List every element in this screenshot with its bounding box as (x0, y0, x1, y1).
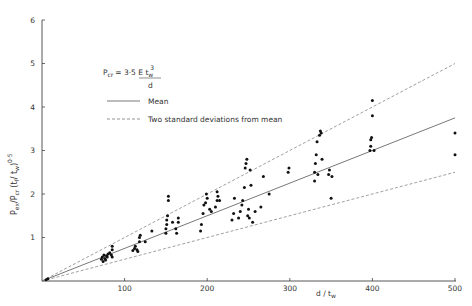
data-point (254, 210, 257, 213)
data-point (218, 199, 221, 202)
data-point (330, 197, 333, 200)
x-tick-label: 500 (448, 284, 463, 293)
data-points (45, 99, 457, 281)
x-tick-label: 300 (283, 284, 298, 293)
data-point (245, 158, 248, 161)
data-point (174, 227, 177, 230)
data-point (144, 240, 147, 243)
data-point (315, 153, 318, 156)
y-tick-label: 1 (30, 233, 35, 242)
data-point (46, 277, 49, 280)
data-point (230, 219, 233, 222)
data-point (204, 201, 207, 204)
data-point (167, 199, 170, 202)
data-point (139, 234, 142, 237)
sd-line (42, 64, 455, 282)
y-ticks: 123456 (30, 16, 45, 243)
legend-sd-label: Two standard deviations from mean (147, 115, 283, 124)
data-point (262, 175, 265, 178)
x-tick-label: 200 (200, 284, 215, 293)
data-point (200, 223, 203, 226)
axes (42, 20, 456, 281)
x-tick-label: 100 (117, 284, 132, 293)
data-point (166, 214, 169, 217)
data-point (165, 219, 168, 222)
data-point (239, 210, 242, 213)
data-point (240, 203, 243, 206)
data-point (202, 212, 205, 215)
data-point (249, 184, 252, 187)
data-point (371, 99, 374, 102)
data-point (165, 223, 168, 226)
data-point (243, 186, 246, 189)
x-ticks: 100200300400500 (117, 278, 462, 293)
formula: Pcr= 3·5 E tw3 (103, 64, 154, 78)
data-point (237, 216, 240, 219)
data-point (134, 245, 137, 248)
data-point (249, 169, 252, 172)
data-point (287, 171, 290, 174)
y-tick-label: 5 (30, 59, 35, 68)
data-point (454, 153, 457, 156)
data-point (287, 166, 290, 169)
data-point (216, 190, 219, 193)
data-point (206, 197, 209, 200)
sd-line (42, 172, 455, 281)
y-axis-title: Pex/Pcr(tf/ tw)0·5 (6, 153, 20, 215)
data-point (111, 245, 114, 248)
formula-denominator: d (148, 81, 153, 90)
data-point (104, 259, 107, 262)
y-tick-label: 2 (30, 190, 35, 199)
data-point (106, 256, 109, 259)
data-point (268, 193, 271, 196)
data-point (210, 210, 213, 213)
data-point (368, 149, 371, 152)
data-point (248, 216, 251, 219)
data-point (136, 250, 139, 253)
data-point (369, 145, 372, 148)
mean-line (42, 118, 455, 281)
data-point (177, 216, 180, 219)
legend-mean-label: Mean (148, 97, 169, 106)
legend: Pcr= 3·5 E tw3 d Mean Two standard devia… (103, 64, 283, 124)
data-point (167, 195, 170, 198)
data-point (371, 114, 374, 117)
y-tick-label: 4 (30, 103, 35, 112)
data-point (138, 240, 141, 243)
chart-canvas: 123456 100200300400500 Pcr= 3·5 E tw3 d … (0, 0, 472, 306)
data-point (327, 173, 330, 176)
y-tick-label: 3 (30, 146, 35, 155)
data-point (232, 212, 235, 215)
data-point (241, 199, 244, 202)
data-point (216, 195, 219, 198)
data-point (111, 248, 114, 251)
data-point (164, 227, 167, 230)
data-point (214, 206, 217, 209)
data-point (320, 132, 323, 135)
data-point (321, 158, 324, 161)
data-point (313, 171, 316, 174)
data-point (111, 256, 114, 259)
data-point (316, 173, 319, 176)
data-point (330, 175, 333, 178)
data-point (247, 208, 250, 211)
regression-lines (42, 64, 455, 282)
data-point (259, 206, 262, 209)
data-point (370, 136, 373, 139)
data-point (454, 132, 457, 135)
data-point (328, 169, 331, 172)
data-point (233, 197, 236, 200)
data-point (373, 149, 376, 152)
data-point (316, 140, 319, 143)
data-point (164, 232, 167, 235)
data-point (314, 162, 317, 165)
data-point (171, 221, 174, 224)
data-point (150, 229, 153, 232)
data-point (175, 232, 178, 235)
x-axis-title: d / tw (316, 289, 336, 299)
data-point (199, 229, 202, 232)
data-point (251, 221, 254, 224)
data-point (244, 166, 247, 169)
x-tick-label: 400 (365, 284, 380, 293)
y-tick-label: 6 (30, 16, 35, 25)
